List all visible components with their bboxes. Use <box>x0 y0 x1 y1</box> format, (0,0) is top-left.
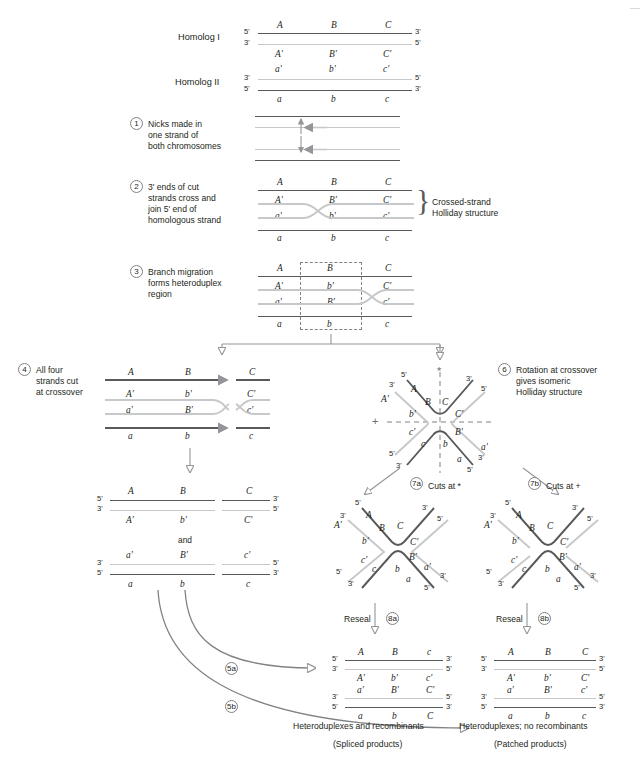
x-arm-A: A <box>411 385 417 394</box>
x-end-3b: 3' <box>466 375 472 383</box>
marker-B-top: B <box>331 21 337 30</box>
s8b-d2-r5: 5' <box>599 693 605 701</box>
s7b-end-5: 5' <box>486 568 492 576</box>
step-4-badge: 4 <box>18 363 31 376</box>
step-1-line-1: Nicks made in <box>148 119 202 130</box>
s7b-end-6: 3' <box>498 580 504 588</box>
s4p-marker-b2: b <box>180 580 185 589</box>
step-7a-badge: 7a <box>410 477 423 490</box>
branch-split-bracket <box>200 334 460 364</box>
crossed-strand-brace: } <box>416 183 430 217</box>
caption-left-line-2: (Spliced products) <box>333 740 402 749</box>
s4-marker-c: c <box>249 432 253 441</box>
s4p-marker-cp: c' <box>244 551 250 560</box>
step-3-line-2: forms heteroduplex <box>148 278 222 289</box>
x-end-5a: 5' <box>401 371 407 379</box>
s4-crossover-cut <box>105 382 270 428</box>
step-3-line-1: Branch migration <box>148 267 213 278</box>
x-arm-bp: b' <box>409 410 416 419</box>
s4p-marker-c2: c <box>246 580 250 589</box>
s4p-d2-top-right <box>222 564 270 565</box>
x-arm-Ap: A' <box>381 395 389 404</box>
s7b-end-3: 3' <box>572 504 578 512</box>
s4p-d2-bot-left <box>110 574 215 575</box>
s7a-arm-A: A <box>366 511 372 520</box>
top-rule <box>630 8 640 9</box>
s7a-arm-b: b <box>395 565 400 574</box>
caption-right-line-1: Heteroduplexes; no recombinants <box>459 722 588 731</box>
x-arm-C: C <box>442 398 448 407</box>
step-8b-badge: 8b <box>538 612 551 625</box>
end-h2-left-3: 3' <box>244 74 250 82</box>
s4p-d1-bot-left <box>110 510 215 511</box>
x-arm-a: a <box>457 455 462 464</box>
x-end-3d: 3' <box>478 454 484 462</box>
strand-h1-bottom <box>258 44 412 45</box>
s4p-d2-top-left <box>110 564 215 565</box>
end-h1-right-5: 5' <box>415 39 421 47</box>
marker-Bp: B' <box>329 50 337 59</box>
strand-h2-bottom <box>258 90 412 91</box>
x-end-5b: 5' <box>481 385 487 393</box>
end-h2-right-3: 3' <box>415 85 421 93</box>
x-end-3a: 3' <box>389 381 395 389</box>
marker-A-top: A <box>277 21 283 30</box>
s7b-arm-Bp: B' <box>559 553 567 562</box>
s7a-end-4: 5' <box>437 515 443 523</box>
s4p-marker-ap: a' <box>126 551 133 560</box>
marker-bp: b' <box>329 65 336 74</box>
s2-crossover-strands <box>258 186 414 236</box>
x-arm-c: c <box>421 440 425 449</box>
s7a-arm-Ap: A' <box>334 521 342 530</box>
marker-Ap: A' <box>275 50 283 59</box>
star-marker-top: * <box>437 366 441 377</box>
s7a-end-3: 3' <box>422 504 428 512</box>
homolog-2-label: Homolog II <box>175 78 219 87</box>
marker-c: c <box>385 95 389 104</box>
s7b-arm-Ap: A' <box>484 521 492 530</box>
step-1-line-2: one strand of <box>148 130 198 141</box>
step-2-line-4: homologous strand <box>148 215 221 226</box>
plus-marker-left: + <box>372 416 378 427</box>
marker-C-top: C <box>385 21 391 30</box>
s8b-d2-cp: c' <box>581 686 587 695</box>
s7b-arm-bp: b' <box>512 537 519 546</box>
s4p-d2-r5: 5' <box>273 559 279 567</box>
step-2-line-2: strands cross and <box>148 193 216 204</box>
end-h1-left-5: 5' <box>244 28 250 36</box>
x-end-5c: 5' <box>389 450 395 458</box>
caption-left-line-1: Heteroduplexes and recombinants <box>293 722 424 731</box>
step-6-line-3: Holliday structure <box>516 387 582 398</box>
s4p-d2-bot-right <box>222 574 270 575</box>
s7b-arm-ap: a' <box>574 563 581 572</box>
s8b-d2-b: b <box>545 712 550 721</box>
s7a-arm-bp: b' <box>362 537 369 546</box>
s7a-arm-C: C <box>397 522 403 531</box>
step-1-badge: 1 <box>130 117 143 130</box>
s4p-marker-Bp: B' <box>180 551 188 560</box>
s4p-marker-bp: b' <box>180 516 187 525</box>
s8b-d1-r3: 3' <box>599 655 605 663</box>
s8b-d1-B: B <box>545 648 551 657</box>
s7b-arm-a: a <box>556 575 561 584</box>
figure-canvas: Homolog I Homolog II A B C A' B' C' 5' 3… <box>0 0 642 763</box>
s4p-d1-r3: 3' <box>273 495 279 503</box>
s2-marker-a: a <box>277 234 282 243</box>
s4p-d2-l3: 3' <box>97 559 103 567</box>
marker-ap: a' <box>275 65 282 74</box>
step-4-line-1: All four <box>36 365 63 376</box>
s7a-arm-a: a <box>406 575 411 584</box>
reseal-8b-arrow <box>520 603 534 641</box>
step1-nick-arrows <box>255 110 405 170</box>
s2-strand-bottom <box>258 230 412 231</box>
step-5b-badge: 5b <box>225 700 238 713</box>
s4p-d1-top-right <box>222 500 270 501</box>
step-6-line-2: gives isomeric <box>516 376 570 387</box>
s4p-marker-Cp: C' <box>244 516 252 525</box>
step-3-line-3: region <box>148 289 172 300</box>
s7a-arm-ap: a' <box>424 563 431 572</box>
marker-b: b <box>331 95 336 104</box>
s4p-d1-l5: 5' <box>97 495 103 503</box>
s4p-marker-Ap: A' <box>126 516 134 525</box>
s3-marker-a: a <box>277 320 282 329</box>
